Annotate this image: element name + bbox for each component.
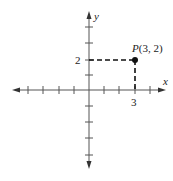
projection-lines: [89, 60, 135, 90]
point-p-coords: (3, 2): [139, 42, 163, 55]
y-tick-label-2: 2: [75, 54, 81, 66]
y-axis-label: y: [93, 10, 99, 22]
x-axis-right-arrow-icon: [158, 88, 166, 93]
y-axis-up-arrow-icon: [87, 11, 92, 19]
point-p: [132, 57, 138, 63]
y-axis-down-arrow-icon: [87, 161, 92, 169]
x-tick-label-3: 3: [131, 96, 137, 108]
coordinate-plane-figure: x 3 y 2: [0, 0, 173, 181]
point-p-label: P(3, 2): [131, 42, 163, 55]
x-axis-left-arrow-icon: [12, 88, 20, 93]
x-axis-label: x: [162, 75, 168, 87]
coordinate-plane-svg: x 3 y 2: [0, 0, 173, 181]
x-axis: x 3: [12, 75, 168, 108]
